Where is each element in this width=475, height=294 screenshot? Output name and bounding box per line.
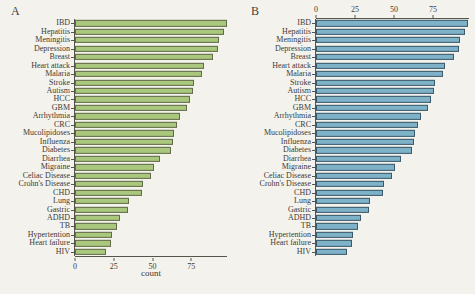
bar-cell — [74, 19, 227, 27]
y-tick — [312, 193, 315, 194]
bar-row: CHD — [0, 188, 227, 196]
y-tick — [71, 125, 74, 126]
bar-cell — [315, 239, 468, 247]
bar-row: Influenza — [238, 138, 468, 146]
bar-row: Crohn's Disease — [0, 180, 227, 188]
bar-cell — [74, 180, 227, 188]
bar — [316, 156, 401, 162]
bar-row: Heart attack — [238, 61, 468, 69]
y-tick — [312, 99, 315, 100]
y-tick — [312, 243, 315, 244]
bar-row: Meningitis — [238, 36, 468, 44]
bar — [316, 130, 415, 136]
x-tick — [113, 258, 114, 261]
category-label: HIV — [238, 248, 315, 256]
bar-cell — [74, 61, 227, 69]
y-tick — [71, 66, 74, 67]
bar — [316, 181, 384, 187]
bar — [75, 223, 117, 229]
bar — [75, 206, 128, 212]
bar-cell — [315, 44, 468, 52]
bar-cell — [74, 129, 227, 137]
bar — [75, 189, 142, 195]
x-tick — [355, 15, 356, 18]
bar — [75, 113, 180, 119]
bar — [316, 206, 369, 212]
bar-row: ADHD — [238, 214, 468, 222]
bar — [75, 20, 227, 26]
bar — [75, 122, 177, 128]
y-tick — [71, 210, 74, 211]
y-tick — [71, 91, 74, 92]
bar-row: Gastric — [238, 205, 468, 213]
y-tick — [312, 235, 315, 236]
bar — [316, 139, 414, 145]
category-label: Crohn's Disease — [0, 180, 74, 188]
bar-cell — [315, 121, 468, 129]
y-tick — [71, 57, 74, 58]
bar-row: Mucolipidoses — [238, 129, 468, 137]
y-tick — [312, 66, 315, 67]
y-tick — [71, 159, 74, 160]
bar-cell — [74, 163, 227, 171]
category-label: Lung — [0, 197, 74, 205]
y-tick — [312, 125, 315, 126]
y-tick — [71, 32, 74, 33]
bar-row: Autism — [0, 87, 227, 95]
bar — [75, 232, 112, 238]
y-tick — [312, 74, 315, 75]
y-tick — [71, 176, 74, 177]
bar — [75, 71, 202, 77]
x-tick-label: 75 — [429, 5, 437, 14]
bar — [75, 147, 171, 153]
bar-cell — [74, 95, 227, 103]
bar-rows-a: IBDHepatitisMeningitisDepressionBreastHe… — [0, 19, 227, 256]
x-tick — [433, 15, 434, 18]
y-tick — [312, 210, 315, 211]
x-tick — [191, 258, 192, 261]
x-axis-title: count — [75, 268, 227, 278]
bar — [316, 215, 361, 221]
bar-cell — [315, 188, 468, 196]
bar — [316, 20, 468, 26]
y-tick — [312, 201, 315, 202]
bar-row: Arrhythmia — [238, 112, 468, 120]
bar — [75, 130, 174, 136]
bar — [75, 54, 213, 60]
y-tick — [312, 32, 315, 33]
bar-cell — [74, 138, 227, 146]
bar — [75, 105, 187, 111]
y-tick — [312, 83, 315, 84]
y-tick — [71, 201, 74, 202]
bar — [316, 79, 435, 85]
category-label: Meningitis — [0, 36, 74, 44]
bar — [316, 96, 431, 102]
bar-row: Stroke — [0, 78, 227, 86]
bar — [75, 79, 194, 85]
bar-row: Lung — [238, 197, 468, 205]
bar-cell — [315, 129, 468, 137]
panel-letter-b: B — [251, 4, 260, 19]
y-tick — [71, 23, 74, 24]
y-tick — [71, 49, 74, 50]
bar-cell — [315, 163, 468, 171]
y-tick — [312, 226, 315, 227]
y-tick — [71, 243, 74, 244]
bar — [75, 62, 204, 68]
bar — [316, 88, 434, 94]
bar-cell — [74, 222, 227, 230]
bar — [316, 37, 460, 43]
bar-cell — [315, 138, 468, 146]
bar-cell — [315, 231, 468, 239]
bar-row: HCC — [238, 95, 468, 103]
bar — [75, 249, 106, 255]
category-label: Lung — [238, 197, 315, 205]
category-label: Breast — [238, 53, 315, 61]
bar-cell — [74, 146, 227, 154]
bar — [316, 164, 395, 170]
bar-cell — [315, 146, 468, 154]
y-tick — [312, 150, 315, 151]
y-tick — [71, 167, 74, 168]
bar-cell — [74, 239, 227, 247]
y-tick — [71, 83, 74, 84]
